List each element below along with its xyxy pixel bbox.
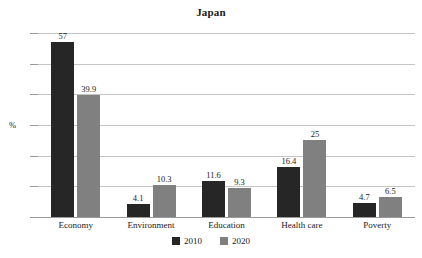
bar-group: 16.425Health care [264, 33, 339, 217]
y-axis-tick-mark [30, 217, 38, 218]
bar-2010[interactable] [51, 42, 74, 217]
bar-group: 4.110.3Environment [113, 33, 188, 217]
legend-item-2020[interactable]: 2020 [220, 236, 250, 246]
legend-swatch-icon [220, 237, 228, 245]
bar-2020[interactable] [77, 95, 100, 217]
bar-groups: 5739.9Economy4.110.3Environment11.69.3Ed… [38, 33, 415, 217]
y-axis-tick-mark [30, 33, 38, 34]
bar-group-bars: 4.76.5 [340, 33, 415, 217]
bar-group: 5739.9Economy [38, 33, 113, 217]
bar-slot: 25 [303, 33, 326, 217]
y-axis-tick-mark [30, 125, 38, 126]
y-axis-unit-label: % [4, 120, 16, 130]
legend-item-2010[interactable]: 2010 [172, 236, 202, 246]
bar-group: 11.69.3Education [189, 33, 264, 217]
bar-group-bars: 11.69.3 [189, 33, 264, 217]
bar-slot: 6.5 [379, 33, 402, 217]
bar-slot: 10.3 [153, 33, 176, 217]
bar-group: 4.76.5Poverty [340, 33, 415, 217]
bar-2020[interactable] [153, 185, 176, 217]
bar-slot: 39.9 [77, 33, 100, 217]
bar-slot: 4.1 [127, 33, 150, 217]
bar-group-bars: 16.425 [264, 33, 339, 217]
bar-slot: 9.3 [228, 33, 251, 217]
legend-label: 2010 [184, 236, 202, 246]
y-axis-tick-mark [30, 186, 38, 187]
bar-2020[interactable] [228, 188, 251, 217]
bar-2020[interactable] [303, 140, 326, 217]
bar-value-label: 6.5 [369, 186, 412, 196]
plot-area: 0102030405060 5739.9Economy4.110.3Enviro… [38, 33, 415, 217]
bar-2010[interactable] [353, 203, 376, 217]
gridline [38, 217, 415, 218]
bar-value-label: 9.3 [218, 177, 261, 187]
bar-2020[interactable] [379, 197, 402, 217]
bar-value-label: 39.9 [67, 84, 110, 94]
chart-legend: 20102020 [0, 236, 422, 246]
bar-group-bars: 5739.9 [38, 33, 113, 217]
y-axis-tick-mark [30, 64, 38, 65]
bar-value-label: 25 [293, 129, 336, 139]
y-axis-tick-mark [30, 94, 38, 95]
y-axis-tick-mark [30, 156, 38, 157]
bar-slot: 57 [51, 33, 74, 217]
bar-slot: 16.4 [277, 33, 300, 217]
bar-2010[interactable] [277, 167, 300, 217]
bar-slot: 11.6 [202, 33, 225, 217]
bar-value-label: 10.3 [143, 174, 186, 184]
legend-swatch-icon [172, 237, 180, 245]
legend-label: 2020 [232, 236, 250, 246]
bar-chart: Japan % 0102030405060 5739.9Economy4.110… [0, 0, 422, 258]
chart-title: Japan [0, 6, 422, 18]
bar-group-bars: 4.110.3 [113, 33, 188, 217]
x-axis-category-label: Poverty [326, 220, 422, 231]
bar-2010[interactable] [127, 204, 150, 217]
